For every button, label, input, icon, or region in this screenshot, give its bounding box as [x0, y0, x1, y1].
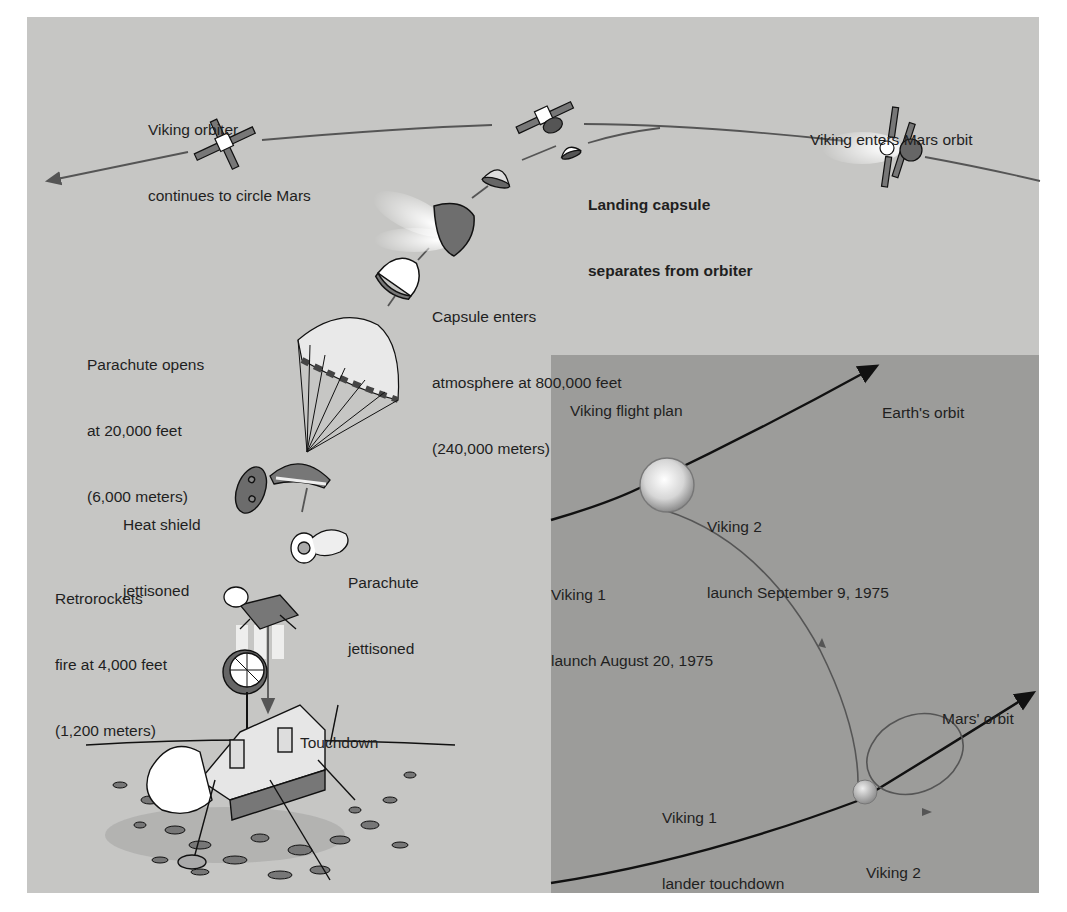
label-line: launch September 9, 1975	[707, 582, 889, 604]
label-mars-orbit: Mars' orbit	[942, 664, 1014, 752]
label-line: Viking 2	[707, 516, 889, 538]
label-viking2-touchdown: Viking 2 lander touchdown September 3, 1…	[866, 818, 998, 912]
lander-retrorockets-icon	[224, 587, 298, 659]
label-orbiter-circles: Viking orbiter continues to circle Mars	[148, 75, 311, 229]
heat-shield-icon	[230, 463, 273, 518]
capsule-reentry-icon	[367, 182, 474, 256]
label-viking1-touchdown: Viking 1 lander touchdown July 20, 1976	[662, 763, 784, 912]
jettisoned-parachute-icon	[291, 530, 348, 563]
label-line: Earth's orbit	[882, 402, 964, 424]
label-line: Mars' orbit	[942, 708, 1014, 730]
parachute-icon	[298, 318, 399, 452]
label-line: Parachute opens	[87, 354, 204, 376]
earth-icon	[640, 458, 694, 512]
label-line: Retrorockets	[55, 588, 167, 610]
label-viking1-launch: Viking 1 launch August 20, 1975	[551, 540, 713, 694]
label-line: (1,200 meters)	[55, 720, 167, 742]
label-earth-orbit: Earth's orbit	[882, 358, 964, 446]
flight-plan-title: Viking flight plan	[570, 356, 683, 444]
capsule-small-icon	[559, 144, 581, 161]
label-line: launch August 20, 1975	[551, 650, 713, 672]
label-line: fire at 4,000 feet	[55, 654, 167, 676]
label-line: lander touchdown	[662, 873, 784, 895]
label-line: Viking orbiter	[148, 119, 311, 141]
lander-aeroshell-icon	[270, 464, 330, 488]
label-line: at 20,000 feet	[87, 420, 204, 442]
label-line: Viking enters Mars orbit	[810, 129, 973, 151]
label-line: Landing capsule	[588, 194, 753, 216]
label-line: Parachute	[348, 572, 419, 594]
label-parachute-jettisoned: Parachute jettisoned	[348, 528, 419, 682]
label-line: Heat shield	[123, 514, 201, 536]
label-line: Viking flight plan	[570, 400, 683, 422]
label-line: Capsule enters	[432, 306, 622, 328]
label-line: Viking 1	[662, 807, 784, 829]
label-enters-orbit: Viking enters Mars orbit	[810, 85, 973, 173]
label-line: jettisoned	[348, 638, 419, 660]
label-viking2-launch: Viking 2 launch September 9, 1975	[707, 472, 889, 626]
orbiter-center-icon	[514, 96, 580, 146]
label-line: Viking 1	[551, 584, 713, 606]
label-line: Viking 2	[866, 862, 998, 884]
label-line: Touchdown	[300, 732, 378, 754]
mars-icon	[853, 780, 877, 804]
label-line: continues to circle Mars	[148, 185, 311, 207]
label-retrorockets: Retrorockets fire at 4,000 feet (1,200 m…	[55, 544, 167, 764]
label-touchdown: Touchdown	[300, 688, 378, 776]
